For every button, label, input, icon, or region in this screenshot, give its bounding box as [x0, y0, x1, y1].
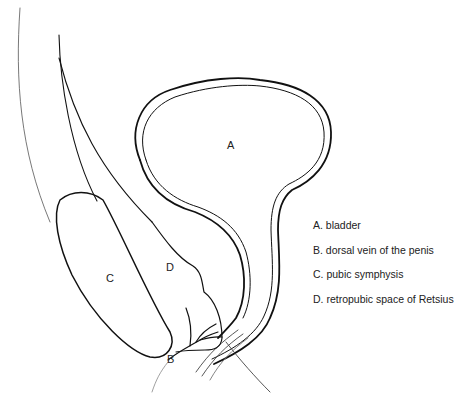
rectus-line-2: [59, 58, 152, 222]
urethra-line-3: [210, 338, 248, 380]
abdominal-wall-outer-line: [18, 8, 50, 222]
legend-item-pubic-symphysis: C. pubic symphysis: [313, 268, 454, 293]
retropubic-space-outline: [152, 222, 222, 352]
label-b: B: [167, 354, 174, 365]
label-d: D: [166, 262, 174, 273]
anatomy-figure: [0, 0, 465, 398]
pubic-symphysis-outline: [56, 193, 172, 358]
dorsal-vein-trunk: [168, 332, 218, 360]
rectus-line-1: [59, 35, 97, 201]
bladder-anterior-wall-inner: [146, 160, 250, 318]
legend: A. bladder B. dorsal vein of the penis C…: [313, 219, 454, 317]
penis-line-lower: [152, 362, 168, 392]
legend-item-bladder: A. bladder: [313, 219, 454, 244]
dorsal-vein-branch-2: [196, 324, 216, 342]
penis-line-right: [226, 342, 270, 392]
bladder-anterior-wall-outer: [140, 160, 244, 338]
label-c: C: [106, 273, 114, 284]
label-a: A: [227, 140, 234, 151]
legend-item-dorsal-vein: B. dorsal vein of the penis: [313, 244, 454, 269]
bladder-inner-wall: [143, 85, 325, 359]
dorsal-vein-branch-1: [186, 308, 191, 346]
legend-item-retropubic-space: D. retropubic space of Retsius: [313, 293, 454, 318]
